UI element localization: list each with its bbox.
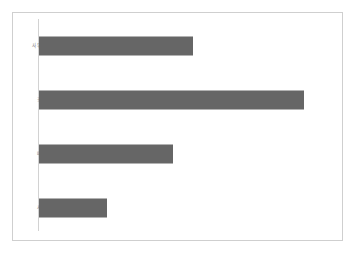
bar-1[interactable] (39, 91, 304, 110)
bar-0[interactable] (39, 37, 193, 56)
bar-2[interactable] (39, 145, 173, 164)
plot-area: 사무실 공장 매장 사택 (13, 13, 342, 240)
bar-3[interactable] (39, 199, 107, 218)
chart-frame: 사무실 공장 매장 사택 (12, 12, 343, 241)
